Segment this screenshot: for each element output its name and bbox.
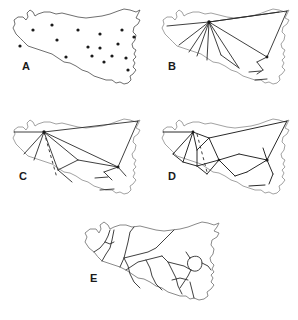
network-node xyxy=(117,166,120,169)
point-marker xyxy=(98,32,101,35)
panel-label-b: B xyxy=(168,60,176,72)
point-marker xyxy=(120,28,123,31)
point-marker xyxy=(55,38,58,41)
point-marker xyxy=(124,56,127,59)
point-marker xyxy=(116,42,119,45)
point-marker xyxy=(18,44,21,47)
point-marker xyxy=(90,54,93,57)
network-node xyxy=(265,158,268,161)
point-marker xyxy=(50,23,53,26)
panel-label-a: A xyxy=(22,60,30,72)
panel-label-d: D xyxy=(168,170,176,182)
network-node xyxy=(192,131,195,134)
panel-label-e: E xyxy=(90,272,97,284)
figure-container: A xyxy=(0,0,298,320)
point-marker xyxy=(132,35,135,38)
point-marker xyxy=(86,45,89,48)
point-marker xyxy=(98,46,101,49)
figure-background xyxy=(0,0,298,320)
panel-label-c: C xyxy=(19,170,27,182)
point-marker xyxy=(64,55,67,58)
point-marker xyxy=(76,28,79,31)
network-node xyxy=(266,56,269,59)
network-node xyxy=(218,159,221,162)
hub-node xyxy=(42,130,45,133)
point-marker xyxy=(110,54,113,57)
sicily-five-panel-figure: A xyxy=(0,0,298,320)
point-marker xyxy=(31,28,34,31)
point-marker xyxy=(126,68,129,71)
hub-node xyxy=(207,20,210,23)
point-marker xyxy=(102,60,105,63)
